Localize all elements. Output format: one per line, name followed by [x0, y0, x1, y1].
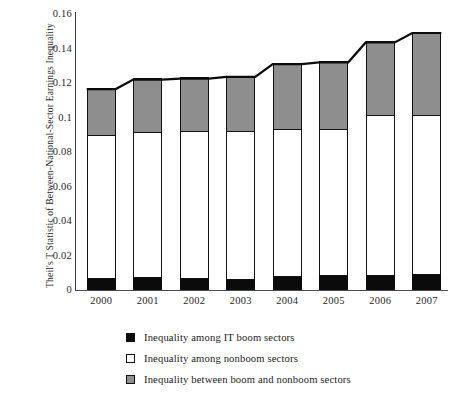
bar-segment: [133, 132, 162, 279]
x-tick-label-2004: 2004: [264, 295, 310, 306]
bar-2007: [412, 14, 441, 290]
bar-segment: [180, 279, 209, 290]
bar-segment: [412, 32, 441, 116]
bar-segment: [133, 278, 162, 290]
legend-item: Inequality among IT boom sectors: [126, 327, 446, 348]
bar-segment: [412, 114, 441, 275]
x-tick-label-2000: 2000: [78, 295, 124, 306]
bar-segment: [319, 129, 348, 276]
bar-segment: [226, 280, 255, 290]
y-tick-label: 0.16: [4, 9, 72, 19]
bar-segment: [412, 275, 441, 290]
bar-segment: [87, 135, 116, 279]
legend-swatch-between: [126, 375, 135, 384]
x-tick-label-2006: 2006: [357, 295, 403, 306]
x-tick-label-2001: 2001: [125, 295, 171, 306]
y-tick-label: 0.04: [4, 216, 72, 226]
bar-segment: [180, 77, 209, 132]
x-tick-label-2003: 2003: [218, 295, 264, 306]
bar-2000: [87, 14, 116, 290]
bar-2005: [319, 14, 348, 290]
x-tick-label-2002: 2002: [171, 295, 217, 306]
legend-swatch-nonboom: [126, 354, 135, 363]
bar-segment: [87, 279, 116, 290]
bar-segment: [87, 88, 116, 137]
plot-area: [76, 14, 448, 290]
bar-2003: [226, 14, 255, 290]
bar-segment: [273, 129, 302, 276]
legend-item: Inequality among nonboom sectors: [126, 348, 446, 369]
legend-label-nonboom: Inequality among nonboom sectors: [144, 353, 298, 364]
chart-legend: Inequality among IT boom sectors Inequal…: [126, 327, 446, 390]
legend-swatch-it-boom: [126, 333, 135, 342]
legend-label-between: Inequality between boom and nonboom sect…: [144, 374, 351, 385]
y-tick-label: 0.1: [4, 113, 72, 123]
bar-segment: [133, 78, 162, 133]
y-tick-label: 0: [4, 285, 72, 295]
bar-2002: [180, 14, 209, 290]
y-axis-tick-labels: 00.020.040.060.080.10.120.140.16: [0, 0, 72, 397]
y-tick-label: 0.08: [4, 147, 72, 157]
bar-segment: [226, 76, 255, 133]
bar-segment: [180, 131, 209, 279]
bar-2001: [133, 14, 162, 290]
bar-segment: [366, 276, 395, 290]
y-tick-label: 0.06: [4, 182, 72, 192]
bar-2004: [273, 14, 302, 290]
bar-segment: [366, 114, 395, 275]
legend-label-it-boom: Inequality among IT boom sectors: [144, 332, 295, 343]
bar-segment: [319, 276, 348, 290]
bar-segment: [273, 277, 302, 290]
x-axis-line: [75, 290, 448, 291]
x-tick-label-2007: 2007: [404, 295, 450, 306]
legend-item: Inequality between boom and nonboom sect…: [126, 369, 446, 390]
bar-2006: [366, 14, 395, 290]
bar-segment: [319, 61, 348, 130]
bar-segment: [226, 131, 255, 280]
bar-segment: [273, 63, 302, 131]
chart-figure: Theil's T Statistic of Between-National-…: [0, 0, 468, 397]
bar-segment: [366, 41, 395, 116]
y-tick-label: 0.12: [4, 78, 72, 88]
y-tick-label: 0.02: [4, 251, 72, 261]
x-tick-label-2005: 2005: [311, 295, 357, 306]
y-tick-label: 0.14: [4, 44, 72, 54]
